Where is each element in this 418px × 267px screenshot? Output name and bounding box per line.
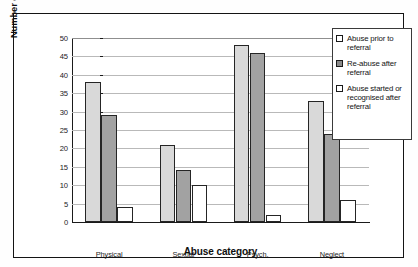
y-axis-tick-label: 5: [64, 199, 68, 208]
y-axis-tick-label: 30: [60, 107, 68, 116]
y-axis-tick-labels: 05101520253035404550: [44, 38, 68, 222]
legend-swatch-icon: [336, 60, 343, 67]
bar[interactable]: [324, 134, 340, 222]
legend-swatch-icon: [336, 35, 343, 42]
legend-item[interactable]: Abuse prior to referral: [336, 34, 408, 53]
bar[interactable]: [101, 115, 117, 222]
y-axis-tick-label: 40: [60, 70, 68, 79]
y-axis-tick-label: 0: [64, 218, 68, 227]
bar[interactable]: [234, 45, 250, 222]
bar-group: [146, 38, 220, 222]
bar[interactable]: [160, 145, 176, 222]
x-axis-tick-label: Sexual: [146, 250, 220, 259]
bar[interactable]: [117, 207, 133, 222]
legend-swatch-icon: [336, 85, 343, 92]
x-axis-tick-label: Neglect: [295, 250, 369, 259]
chart-legend: Abuse prior to referralRe-abuse after re…: [332, 28, 412, 140]
plot-area: PhysicalSexualPsych.Neglect: [72, 38, 369, 222]
y-axis-tick-label: 25: [60, 126, 68, 135]
legend-label: Re-abuse after referral: [347, 59, 396, 77]
bar-group: [72, 38, 146, 222]
y-axis-tick-label: 50: [60, 34, 68, 43]
x-axis-tick-label: Physical: [72, 250, 146, 259]
bar[interactable]: [308, 101, 324, 222]
y-axis-tick-label: 45: [60, 52, 68, 61]
legend-label: Abuse prior to referral: [347, 34, 393, 52]
legend-label: Abuse started or recognised after referr…: [347, 84, 402, 112]
bar[interactable]: [266, 215, 282, 222]
x-axis-tick-label: Psych.: [221, 250, 295, 259]
bar[interactable]: [192, 185, 208, 222]
legend-item[interactable]: Re-abuse after referral: [336, 59, 408, 78]
y-axis-tick-label: 35: [60, 89, 68, 98]
bar-group: [221, 38, 295, 222]
bar[interactable]: [340, 200, 356, 222]
bar[interactable]: [250, 53, 266, 222]
chart-frame: Number of children Abuse category 051015…: [13, 13, 404, 258]
y-axis-title: Number of children: [8, 0, 19, 66]
chart-figure: Number of children Abuse category 051015…: [0, 0, 418, 267]
legend-item[interactable]: Abuse started or recognised after referr…: [336, 84, 408, 112]
bar[interactable]: [85, 82, 101, 222]
y-axis-tick-label: 15: [60, 162, 68, 171]
y-axis-tick-label: 20: [60, 144, 68, 153]
y-axis-tick-label: 10: [60, 181, 68, 190]
y-axis-tick-mark: [100, 222, 103, 223]
bar[interactable]: [176, 170, 192, 222]
x-axis-line: [72, 222, 370, 223]
